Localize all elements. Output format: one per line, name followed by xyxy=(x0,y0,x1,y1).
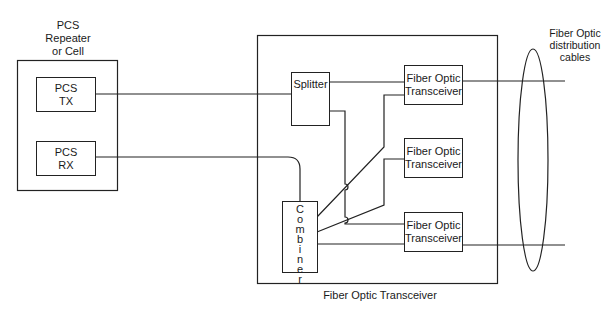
splitter-block: Splitter xyxy=(291,72,330,126)
fiber-transceiver-middle: Fiber Optic Transceiver xyxy=(404,138,463,178)
pcs-unit-title: PCS Repeater or Cell xyxy=(30,19,106,58)
pcs-rx-block: PCS RX xyxy=(36,141,96,176)
mid-transceiver-to-combiner xyxy=(317,159,404,232)
pcs-tx-block: PCS TX xyxy=(36,77,96,112)
cable-bundle-ellipse xyxy=(518,49,548,271)
cables-title: Fiber Optic distribution cables xyxy=(540,27,610,63)
combiner-block: C o m b i n e r xyxy=(282,201,318,273)
splitter-to-bottom-transceiver xyxy=(329,111,404,224)
rx-to-combiner-line xyxy=(95,157,300,201)
fiber-transceiver-top: Fiber Optic Transceiver xyxy=(404,65,463,105)
fiber-transceiver-bottom: Fiber Optic Transceiver xyxy=(404,212,463,252)
top-transceiver-to-combiner xyxy=(317,95,404,217)
main-unit-caption: Fiber Optic Transceiver xyxy=(300,289,460,302)
